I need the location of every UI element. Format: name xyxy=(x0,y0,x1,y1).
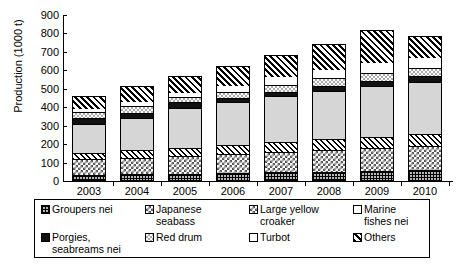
legend-swatch-icon xyxy=(249,233,258,242)
bar-segment xyxy=(217,67,249,86)
bar-2010 xyxy=(408,36,442,182)
y-tick-mark xyxy=(63,181,67,182)
legend-item: Japanese seabass xyxy=(145,204,249,232)
y-tick-label: 100 xyxy=(31,159,59,167)
bar-segment xyxy=(361,149,393,172)
bar-segment xyxy=(313,70,345,79)
bar-segment xyxy=(313,92,345,141)
bar-segment xyxy=(265,77,297,85)
bar-segment xyxy=(361,74,393,82)
legend-box: Groupers neiJapanese seabassLarge yellow… xyxy=(34,199,430,258)
bar-segment xyxy=(313,45,345,71)
bar-segment xyxy=(409,37,441,58)
bar-segment xyxy=(169,175,201,181)
legend-swatch-icon xyxy=(145,233,154,242)
legend-label: Large yellow croaker xyxy=(260,204,319,227)
legend-item: Red drum xyxy=(145,232,249,258)
legend-item: Large yellow croaker xyxy=(249,204,353,232)
legend-swatch-icon xyxy=(353,205,362,214)
bar-segment xyxy=(73,97,105,109)
bar-segment xyxy=(409,147,441,171)
y-tick-mark xyxy=(63,163,67,164)
bar-2006 xyxy=(216,66,250,182)
bar-segment xyxy=(169,109,201,149)
bar-segment xyxy=(217,146,249,155)
bar-segment xyxy=(409,58,441,69)
bar-segment xyxy=(73,154,105,161)
bar-segment xyxy=(73,160,105,175)
legend-grid: Groupers neiJapanese seabassLarge yellow… xyxy=(35,200,429,258)
y-tick-label: 400 xyxy=(31,103,59,111)
bar-segment xyxy=(265,56,297,78)
y-tick-mark xyxy=(63,107,67,108)
y-tick-mark xyxy=(63,126,67,127)
bar-segment xyxy=(73,176,105,181)
bar-2008 xyxy=(312,44,346,182)
legend-swatch-icon xyxy=(41,205,50,214)
legend-swatch-icon xyxy=(41,233,50,242)
bar-segment xyxy=(169,77,201,92)
bar-segment xyxy=(217,103,249,146)
bar-segment xyxy=(361,31,393,63)
bar-segment xyxy=(313,140,345,150)
legend-item: Porgies, seabreams nei xyxy=(41,232,145,258)
bar-segment xyxy=(313,79,345,87)
y-tick-label: 500 xyxy=(31,85,59,93)
bar-segment xyxy=(361,172,393,181)
legend-label: Marine fishes nei xyxy=(364,204,408,227)
legend-label: Porgies, seabreams nei xyxy=(52,232,121,255)
y-axis-tick-labels: 9008007006005004003002001000 xyxy=(31,0,59,196)
y-tick-mark xyxy=(63,15,67,16)
y-tick-mark xyxy=(63,33,67,34)
legend-label: Groupers nei xyxy=(52,204,113,216)
bar-segment xyxy=(409,83,441,136)
y-tick-label: 300 xyxy=(31,122,59,130)
bar-segment xyxy=(265,173,297,181)
legend-swatch-icon xyxy=(353,233,362,242)
y-tick-label: 800 xyxy=(31,29,59,37)
bar-segment xyxy=(265,143,297,153)
y-tick-mark xyxy=(63,89,67,90)
bar-2005 xyxy=(168,76,202,182)
bar-segment xyxy=(121,175,153,181)
y-tick-label: 900 xyxy=(31,11,59,19)
x-tick-mark xyxy=(257,182,258,186)
bar-segment xyxy=(313,173,345,181)
bar-segment xyxy=(265,97,297,143)
bar-segment xyxy=(313,151,345,173)
bar-segment xyxy=(217,174,249,181)
bar-segment xyxy=(361,63,393,73)
bar-segment xyxy=(121,87,153,102)
y-tick-label: 700 xyxy=(31,48,59,56)
bar-segment xyxy=(121,151,153,158)
bar-segment xyxy=(169,149,201,157)
y-tick-label: 600 xyxy=(31,66,59,74)
y-tick-label: 200 xyxy=(31,140,59,148)
chart-figure: Production (1000 t) 90080070060050040030… xyxy=(0,0,463,275)
x-tick-mark xyxy=(161,182,162,186)
bar-segment xyxy=(217,86,249,93)
bar-segment xyxy=(409,135,441,147)
bar-2009 xyxy=(360,30,394,182)
bar-segment xyxy=(361,138,393,149)
bar-segment xyxy=(217,155,249,174)
legend-item: Groupers nei xyxy=(41,204,145,232)
legend-label: Others xyxy=(364,232,396,244)
legend-label: Turbot xyxy=(260,232,290,244)
bar-segment xyxy=(409,171,441,181)
legend-label: Red drum xyxy=(156,232,202,244)
bar-segment xyxy=(409,69,441,77)
x-tick-mark xyxy=(449,182,450,186)
bar-2003 xyxy=(72,96,106,182)
bar-segment xyxy=(361,87,393,138)
x-tick-label: 2010 xyxy=(395,185,455,197)
y-axis-line xyxy=(63,15,64,182)
plot-area: Production (1000 t) 90080070060050040030… xyxy=(0,0,463,196)
legend-swatch-icon xyxy=(249,205,258,214)
bar-segment xyxy=(121,107,153,114)
legend-item: Others xyxy=(353,232,437,258)
y-tick-label: 0 xyxy=(31,177,59,185)
legend-item: Turbot xyxy=(249,232,353,258)
y-axis-label: Production (1000 t) xyxy=(12,0,24,136)
legend-label: Japanese seabass xyxy=(156,204,202,227)
